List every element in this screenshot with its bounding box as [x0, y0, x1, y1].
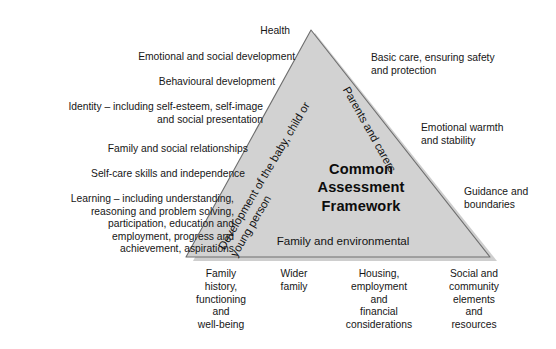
title-line-1: Common	[296, 160, 426, 178]
caf-diagram: Common Assessment Framework Development …	[0, 0, 556, 349]
label-family-history: Family history, functioning and well-bei…	[175, 268, 267, 332]
label-identity: Identity – including self-esteem, self-i…	[18, 101, 263, 126]
side-label-family-and-environmental: Family and environmental	[243, 234, 443, 247]
label-guidance-and-boundaries: Guidance and boundaries	[464, 186, 556, 211]
label-emotional-and-social-development: Emotional and social development	[60, 51, 295, 64]
label-housing-employment-financial: Housing, employment and financial consid…	[330, 268, 428, 332]
label-health: Health	[130, 25, 290, 38]
label-emotional-warmth-and-stability: Emotional warmth and stability	[421, 122, 556, 147]
label-basic-care: Basic care, ensuring safety and protecti…	[371, 52, 546, 77]
label-wider-family: Wider family	[255, 268, 333, 294]
label-social-and-community: Social and community elements and resour…	[428, 268, 520, 332]
label-self-care-skills-and-independence: Self-care skills and independence	[40, 168, 245, 181]
label-family-and-social-relationships: Family and social relationships	[50, 143, 248, 156]
label-behavioural-development: Behavioural development	[70, 76, 275, 89]
label-learning: Learning – including understanding, reas…	[12, 193, 234, 256]
